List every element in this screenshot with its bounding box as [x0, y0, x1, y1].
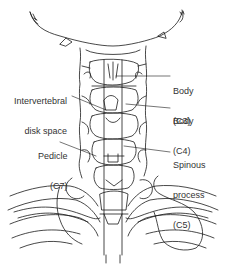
label-line: Pedicle	[38, 151, 68, 161]
label-line: Body	[173, 86, 194, 96]
label-line: (C5)	[173, 220, 206, 230]
label-line: (C7)	[38, 181, 68, 191]
label-line: Intervertebral	[14, 96, 67, 106]
label-line: Spinous	[173, 160, 206, 170]
label-line: process	[173, 190, 206, 200]
label-line: Body	[173, 116, 194, 126]
label-spinous-process-c5: Spinous process (C5)	[173, 140, 206, 240]
label-pedicle-c7: Pedicle (C7)	[38, 131, 68, 201]
